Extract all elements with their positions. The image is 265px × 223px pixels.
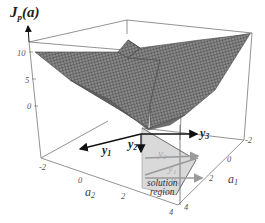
a2-tick: 0 xyxy=(78,175,83,185)
z-axis-arrow xyxy=(28,26,29,42)
z-axis-label: Jp(a) xyxy=(9,4,40,22)
z-axis xyxy=(29,42,41,158)
label-y2: y2 xyxy=(126,137,137,152)
perceptron-criterion-figure: y2 y1 y3 y1 y2 y3 solution region Jp(a) … xyxy=(0,0,265,223)
z-tick: 0 xyxy=(27,101,32,111)
label-y3: y3 xyxy=(198,126,209,141)
box-edge xyxy=(127,20,252,33)
floor-back-edge xyxy=(41,121,108,158)
a1-tick: 0 xyxy=(227,154,232,164)
a2-tick: 4 xyxy=(169,207,174,217)
criterion-surface xyxy=(35,34,250,130)
a1-tick: 2 xyxy=(209,173,214,183)
a1-axis-title: a1 xyxy=(228,172,238,187)
a2-tick: -2 xyxy=(39,162,47,172)
label-y1: y1 xyxy=(100,143,111,158)
a1-tick: -2 xyxy=(245,135,253,145)
z-tick: 10 xyxy=(17,48,26,58)
box-edge xyxy=(29,20,127,42)
a2-tick: 2 xyxy=(121,191,126,201)
a1-tick: 4 xyxy=(184,202,189,212)
surface-left-face xyxy=(35,52,160,128)
a2-axis-title: a2 xyxy=(85,185,95,200)
box-edge xyxy=(244,33,252,140)
solution-region-label-2: region xyxy=(150,187,175,197)
z-tick: 5 xyxy=(25,75,29,85)
